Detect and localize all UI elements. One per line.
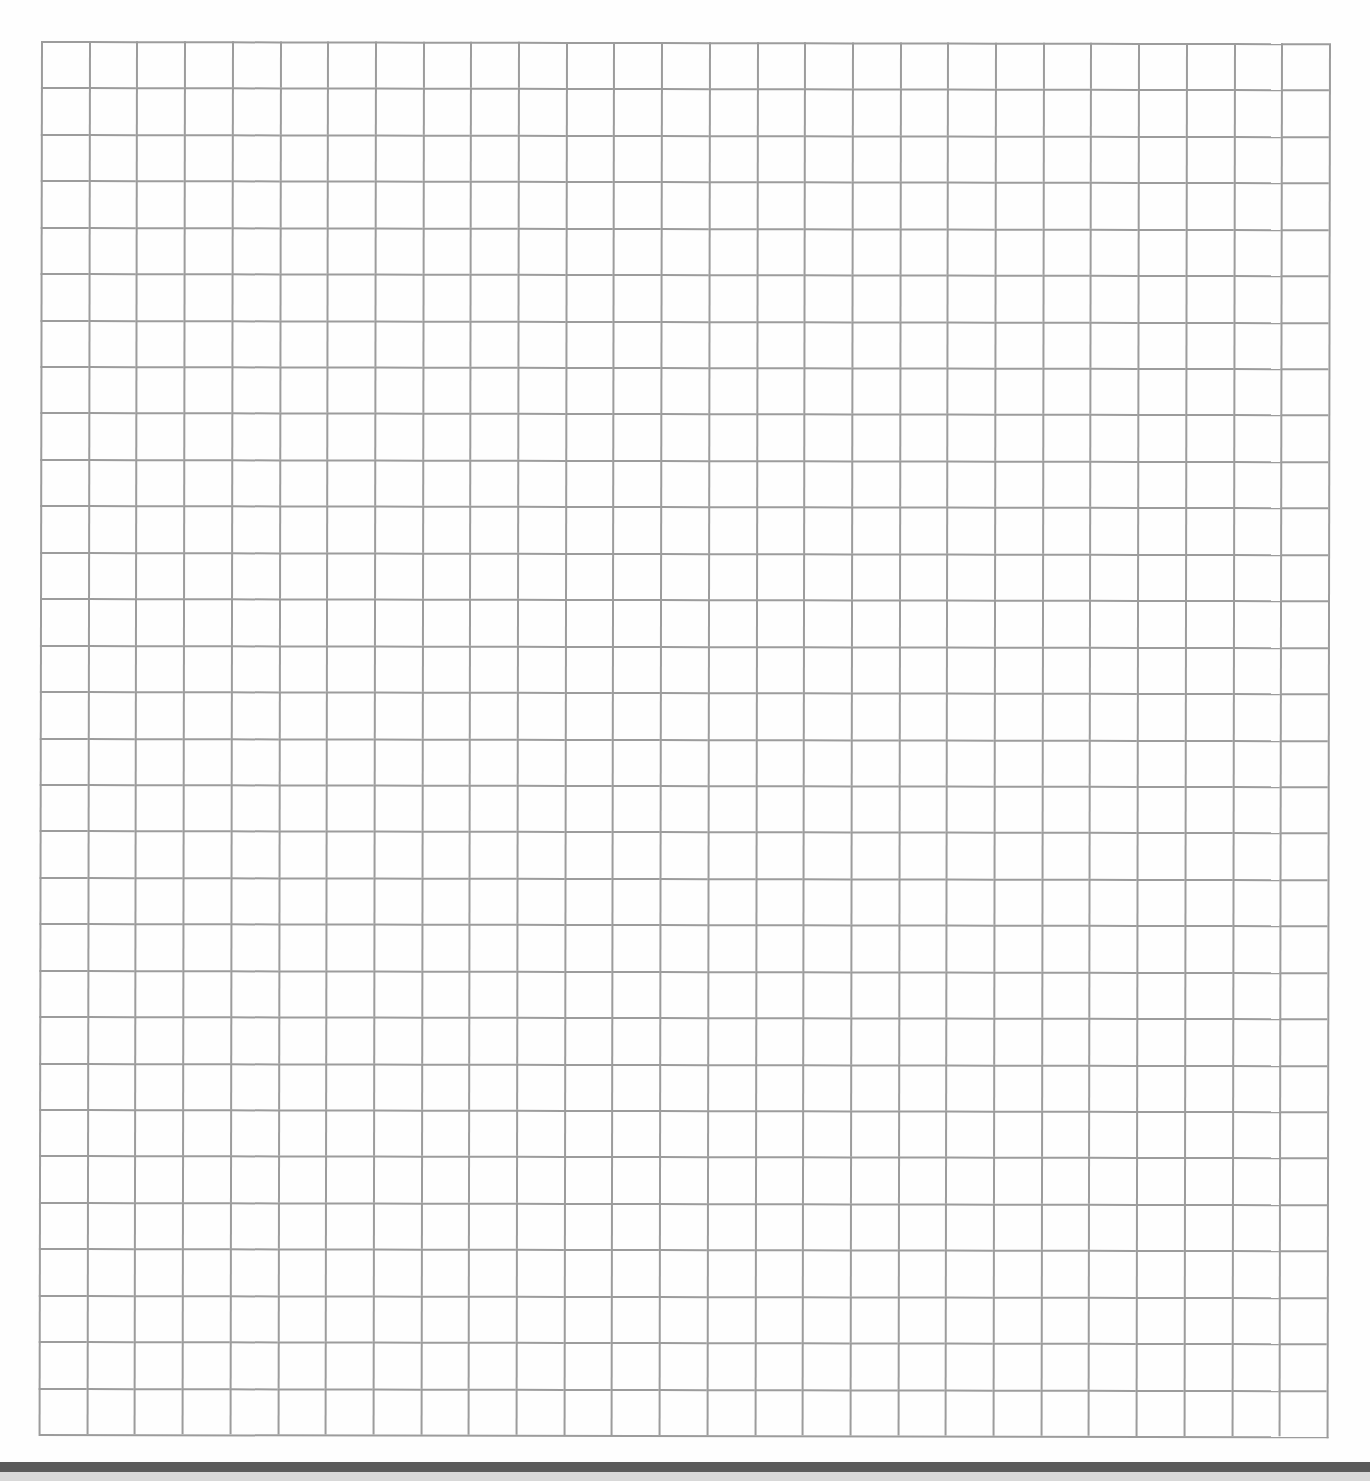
grid-cell [1089, 1018, 1137, 1065]
grid-cell [611, 1389, 659, 1436]
grid-cell [326, 784, 374, 831]
grid-cell [851, 600, 899, 647]
grid-cell [373, 1063, 421, 1110]
grid-cell [1185, 739, 1233, 786]
grid-cell [1280, 600, 1328, 647]
grid-cell [325, 1202, 373, 1249]
grid-cell [1281, 182, 1329, 229]
grid-cell [613, 321, 661, 368]
grid-cell [898, 785, 946, 832]
grid-cell [946, 1018, 994, 1065]
grid-cell [708, 274, 756, 321]
grid-cell [612, 785, 660, 832]
grid-cell [326, 831, 374, 878]
grid-cell [136, 459, 184, 506]
grid-cell [1280, 786, 1328, 833]
grid-cell [804, 89, 852, 136]
grid-cell [1042, 321, 1090, 368]
grid-cell [516, 1249, 564, 1296]
grid-cell [279, 320, 327, 367]
grid-cell [707, 924, 755, 971]
grid-cell [182, 1295, 230, 1342]
grid-cell [755, 878, 803, 925]
grid-cell [660, 692, 708, 739]
grid-cell [898, 739, 946, 786]
grid-cell [1279, 1250, 1327, 1297]
grid-cell [1138, 182, 1186, 229]
grid-cell [136, 88, 184, 135]
grid-cell [851, 460, 899, 507]
grid-cell [995, 182, 1043, 229]
grid-cell [1090, 507, 1138, 554]
grid-cell [1186, 89, 1234, 136]
grid-cell [946, 878, 994, 925]
grid-cell [1041, 1064, 1089, 1111]
grid-cell [469, 599, 517, 646]
grid-cell [279, 227, 327, 274]
grid-cell [230, 924, 278, 971]
grid-cell [899, 135, 947, 182]
grid-cell [136, 134, 184, 181]
grid-cell [39, 1155, 87, 1202]
grid-cell [945, 1343, 993, 1390]
grid-cell [278, 1109, 326, 1156]
grid-cell [565, 692, 613, 739]
grid-cell [898, 832, 946, 879]
grid-cell [278, 877, 326, 924]
grid-cell [709, 89, 757, 136]
grid-cell [947, 460, 995, 507]
grid-cell [422, 320, 470, 367]
grid-cell [1138, 43, 1186, 90]
grid-cell [802, 1110, 850, 1157]
grid-cell [517, 692, 565, 739]
grid-cell [1137, 414, 1185, 461]
grid-cell [88, 645, 136, 692]
grid-cell [1232, 1111, 1280, 1158]
grid-cell [373, 1295, 421, 1342]
grid-cell [470, 413, 518, 460]
grid-cell [947, 228, 995, 275]
grid-cell [1233, 368, 1281, 415]
grid-cell [564, 1110, 612, 1157]
grid-cell [611, 1110, 659, 1157]
grid-cell [87, 1248, 135, 1295]
grid-cell [517, 599, 565, 646]
grid-cell [850, 1064, 898, 1111]
grid-cell [277, 1156, 325, 1203]
grid-cell [707, 878, 755, 925]
grid-cell [469, 878, 517, 925]
grid-cell [659, 1110, 707, 1157]
grid-cell [422, 135, 470, 182]
grid-cell [39, 1248, 87, 1295]
grid-cell [1183, 1390, 1231, 1437]
grid-cell [659, 971, 707, 1018]
grid-cell [1185, 229, 1233, 276]
grid-cell [422, 88, 470, 135]
grid-cell [802, 1389, 850, 1436]
grid-cell [232, 41, 280, 88]
grid-cell [994, 878, 1042, 925]
grid-cell [422, 552, 470, 599]
grid-cell [756, 507, 804, 554]
grid-cell [325, 1109, 373, 1156]
grid-cell [518, 228, 566, 275]
grid-cell [754, 1296, 802, 1343]
grid-cell [1043, 43, 1091, 90]
grid-cell [469, 692, 517, 739]
grid-cell [660, 553, 708, 600]
grid-cell [1040, 1296, 1088, 1343]
grid-cell [1279, 1065, 1327, 1112]
grid-cell [327, 367, 375, 414]
grid-cell [659, 1389, 707, 1436]
grid-cell [327, 320, 375, 367]
grid-cell [41, 180, 89, 227]
grid-cell [517, 320, 565, 367]
grid-cell [1042, 507, 1090, 554]
grid-cell [947, 275, 995, 322]
grid-cell [994, 507, 1042, 554]
grid-cell [88, 227, 136, 274]
grid-cell [1281, 275, 1329, 322]
grid-cell [183, 877, 231, 924]
grid-cell [802, 1017, 850, 1064]
grid-cell [279, 134, 327, 181]
